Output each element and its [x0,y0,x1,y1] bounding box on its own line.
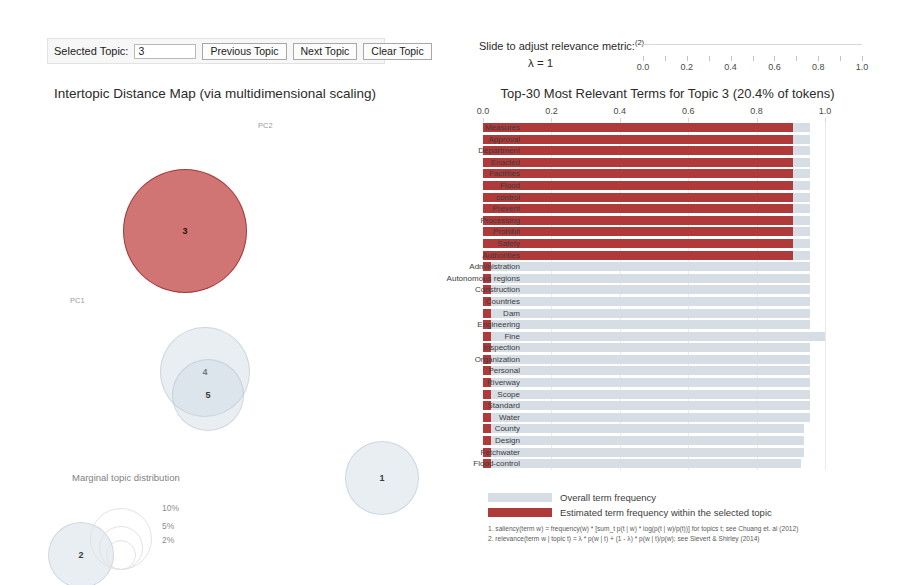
term-label[interactable]: Approval [410,134,520,146]
term-bar-row[interactable]: County [440,423,895,435]
term-bar-row[interactable]: Personal [440,365,895,377]
term-label[interactable]: Standard [410,400,520,412]
bar-within-topic-frequency [483,193,793,202]
term-bar-row[interactable]: Fetchwater [440,447,895,459]
topic-circle-1[interactable]: 1 [345,441,419,515]
term-bar-row[interactable]: Standard [440,400,895,412]
next-topic-button[interactable]: Next Topic [293,43,358,60]
term-bar-row[interactable]: Scope [440,389,895,401]
term-label[interactable]: Flood [410,180,520,192]
term-label[interactable]: Processing [410,215,520,227]
term-bar-row[interactable]: Fine [440,331,895,343]
gridline [825,435,826,447]
gridline [825,261,826,273]
term-bar-row[interactable]: Enacted [440,157,895,169]
gridline [825,377,826,389]
term-label[interactable]: Prohibit [410,226,520,238]
gridline [825,192,826,204]
legend-item-within-topic: Estimated term frequency within the sele… [488,505,888,520]
term-label[interactable]: Organization [410,354,520,366]
relevance-slider-panel: Slide to adjust relevance metric:(2) λ =… [473,36,869,84]
term-bar-row[interactable]: Prevent [440,203,895,215]
term-label[interactable]: Construction [410,284,520,296]
term-bar-row[interactable]: Design [440,435,895,447]
term-label[interactable]: Engineering [410,319,520,331]
gridline [825,447,826,459]
term-label[interactable]: Department [410,145,520,157]
term-label[interactable]: control [410,192,520,204]
term-label[interactable]: Autonomous regions [410,273,520,285]
bar-overall-frequency [483,297,810,306]
previous-topic-button[interactable]: Previous Topic [202,43,286,60]
term-bar-row[interactable]: Countries [440,296,895,308]
gridline [825,250,826,262]
intertopic-map-title: Intertopic Distance Map (via multidimens… [0,86,430,101]
term-bar-row[interactable]: Flood-control [440,458,895,470]
gridline [825,122,826,134]
term-bar-row[interactable]: Autonomous regions [440,273,895,285]
term-label[interactable]: Facilities [410,168,520,180]
footnote-relevance: 2. relevance(term w | topic t) = λ * p(w… [488,534,898,544]
term-bar-row[interactable]: Dam [440,308,895,320]
term-label[interactable]: Enacted [410,157,520,169]
term-bar-row[interactable]: Water [440,412,895,424]
slider-tick [840,56,841,61]
term-bar-row[interactable]: Construction [440,284,895,296]
term-bar-row[interactable]: Inspection [440,342,895,354]
bar-within-topic-frequency [483,216,793,225]
term-label[interactable]: Prevent [410,203,520,215]
bar-within-topic-frequency [483,227,793,236]
term-bar-row[interactable]: Prohibit [440,226,895,238]
bar-within-topic-frequency [483,169,793,178]
term-bar-row[interactable]: Engineering [440,319,895,331]
gridline [825,226,826,238]
bar-within-topic-frequency [483,181,793,190]
term-bar-row[interactable]: Processing [440,215,895,227]
slider-tick [862,56,863,61]
term-bar-row[interactable]: Administration [440,261,895,273]
term-label[interactable]: Design [410,435,520,447]
term-label[interactable]: Flood-control [410,458,520,470]
term-label[interactable]: County [410,423,520,435]
term-label[interactable]: Fetchwater [410,447,520,459]
gridline [825,412,826,424]
bar-overall-frequency [483,355,810,364]
term-label[interactable]: Fine [410,331,520,343]
gridline [825,296,826,308]
topic-circle-5[interactable]: 5 [172,359,244,431]
term-label[interactable]: Riverway [410,377,520,389]
bar-overall-frequency [483,390,810,399]
topic-circle-3[interactable]: 3 [123,169,247,293]
term-label[interactable]: Personal [410,365,520,377]
gridline [825,319,826,331]
term-label[interactable]: Measures [410,122,520,134]
slider-tick [709,56,710,61]
term-bar-row[interactable]: Flood [440,180,895,192]
bar-overall-frequency [483,459,801,468]
term-bar-row[interactable]: control [440,192,895,204]
term-label[interactable]: Inspection [410,342,520,354]
term-bar-row[interactable]: Safety [440,238,895,250]
term-bar-row[interactable]: Organization [440,354,895,366]
term-bar-row[interactable]: Approval [440,134,895,146]
relevance-slider-caption-text: Slide to adjust relevance metric: [479,40,635,52]
term-label[interactable]: Administration [410,261,520,273]
slider-tick-label: 0.4 [724,62,737,72]
term-bar-row[interactable]: Facilities [440,168,895,180]
term-label[interactable]: Dam [410,308,520,320]
term-bar-row[interactable]: Measures [440,122,895,134]
term-label[interactable]: Countries [410,296,520,308]
term-bar-row[interactable]: Department [440,145,895,157]
term-label[interactable]: Scope [410,389,520,401]
x-axis-tick-label: 0.2 [545,106,558,116]
gridline [825,354,826,366]
clear-topic-button[interactable]: Clear Topic [363,43,431,60]
term-bar-row[interactable]: Riverway [440,377,895,389]
selected-topic-input[interactable] [134,44,196,59]
term-label[interactable]: Water [410,412,520,424]
term-bar-row[interactable]: Authorities [440,250,895,262]
topic-circle-label: 3 [182,226,187,236]
barchart-rows: MeasuresApprovalDepartmentEnactedFacilit… [440,122,895,470]
term-label[interactable]: Safety [410,238,520,250]
term-label[interactable]: Authorities [410,250,520,262]
